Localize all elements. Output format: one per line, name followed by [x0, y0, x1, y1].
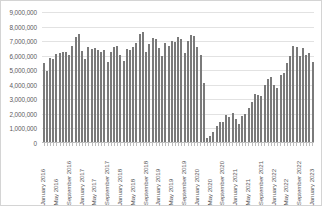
bar-series	[42, 12, 314, 142]
x-axis-label-cell: January 2021	[231, 169, 240, 205]
x-axis-label-cell: January 2020	[193, 169, 202, 205]
bar	[312, 62, 314, 142]
x-axis-tick-label: September 2016	[65, 161, 72, 205]
x-axis-tick-label: May 2017	[90, 179, 97, 205]
x-axis-tick-label: September 2017	[103, 161, 110, 205]
x-axis-tick-label: May 2018	[129, 179, 136, 205]
y-axis-tick-label: 2,000,000	[9, 110, 37, 117]
x-axis-labels: January 2016May 2016September 2016Januar…	[42, 145, 314, 205]
y-axis-tick-label: 6,000,000	[9, 52, 37, 59]
x-axis-label-cell: September 2022	[295, 161, 304, 205]
y-axis-tick-label: 0	[34, 140, 37, 147]
x-axis-label-cell: May 2021	[244, 179, 253, 205]
x-axis-tick-label: January 2018	[116, 169, 123, 205]
y-axis-tick-label: 8,000,000	[9, 23, 37, 30]
x-axis-label-cell: January 2023	[308, 169, 317, 205]
x-axis-label-cell: May 2022	[282, 179, 291, 205]
y-axis-tick-label: 4,000,000	[9, 81, 37, 88]
x-axis-label-cell: January 2017	[78, 169, 87, 205]
y-axis-tick-label: 1,000,000	[9, 125, 37, 132]
x-axis-tick-label: January 2016	[39, 169, 46, 205]
x-axis-label-cell: May 2018	[129, 179, 138, 205]
bar-cell	[311, 12, 314, 142]
x-axis-tick-label: May 2021	[244, 179, 251, 205]
x-axis-tick-label: January 2022	[270, 169, 277, 205]
x-axis-tick-label: September 2019	[180, 161, 187, 205]
x-axis-label-cell: May 2019	[167, 179, 176, 205]
x-axis-tick-label: January 2017	[78, 169, 85, 205]
x-axis-label-cell: September 2016	[65, 161, 74, 205]
x-axis-label-cell: January 2019	[154, 169, 163, 205]
x-axis-label-cell: May 2017	[90, 179, 99, 205]
x-axis-label-cell: January 2022	[270, 169, 279, 205]
x-axis-tick-label: September 2018	[142, 161, 149, 205]
y-axis-labels: 01,000,0002,000,0003,000,0004,000,0005,0…	[1, 1, 39, 147]
x-axis-tick-label: May 2016	[52, 179, 59, 205]
x-axis-tick-label: January 2021	[231, 169, 238, 205]
x-axis-tick-label: May 2020	[206, 179, 213, 205]
x-axis-tick-label: January 2020	[193, 169, 200, 205]
y-axis-tick-label: 3,000,000	[9, 96, 37, 103]
y-axis-tick-label: 9,000,000	[9, 9, 37, 16]
x-axis-tick-label: September 2021	[257, 161, 264, 205]
x-axis-label-cell: January 2016	[39, 169, 48, 205]
x-axis-label-cell: September 2021	[257, 161, 266, 205]
x-axis-label-cell: September 2017	[103, 161, 112, 205]
x-axis-tick-label: May 2022	[282, 179, 289, 205]
x-axis-label-cell: September 2018	[142, 161, 151, 205]
x-axis-label-cell: September 2019	[180, 161, 189, 205]
x-axis-tick-label: September 2022	[295, 161, 302, 205]
x-axis-tick-label: January 2023	[308, 169, 315, 205]
x-axis-tick-label: September 2020	[218, 161, 225, 205]
x-axis-label-cell: May 2016	[52, 179, 61, 205]
plot-area	[42, 12, 314, 143]
x-axis-label-cell: January 2018	[116, 169, 125, 205]
y-axis-tick-label: 7,000,000	[9, 38, 37, 45]
bar-chart: 01,000,0002,000,0003,000,0004,000,0005,0…	[0, 0, 322, 206]
x-axis-tick-label: January 2019	[154, 169, 161, 205]
x-axis-label-cell: May 2020	[206, 179, 215, 205]
x-axis-label-cell: September 2020	[218, 161, 227, 205]
x-axis-tick-label: May 2019	[167, 179, 174, 205]
y-axis-tick-label: 5,000,000	[9, 67, 37, 74]
